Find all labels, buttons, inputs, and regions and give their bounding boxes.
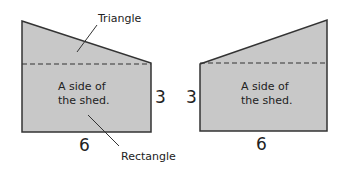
diagram-canvas bbox=[0, 0, 342, 175]
triangle-label: Triangle bbox=[98, 12, 141, 25]
left-inner-text-line2: the shed. bbox=[58, 94, 110, 108]
right-inner-text-line1: A side of bbox=[241, 80, 289, 94]
left-inner-text-line1: A side of bbox=[58, 80, 106, 94]
right-width-label: 6 bbox=[256, 135, 267, 153]
right-height-label: 3 bbox=[186, 88, 197, 106]
left-height-label: 3 bbox=[155, 88, 166, 106]
right-shed-side-shape bbox=[200, 20, 327, 131]
left-shed-side-shape bbox=[22, 21, 151, 132]
left-width-label: 6 bbox=[79, 136, 90, 154]
right-inner-text-line2: the shed. bbox=[241, 94, 293, 108]
rectangle-label: Rectangle bbox=[121, 150, 176, 163]
